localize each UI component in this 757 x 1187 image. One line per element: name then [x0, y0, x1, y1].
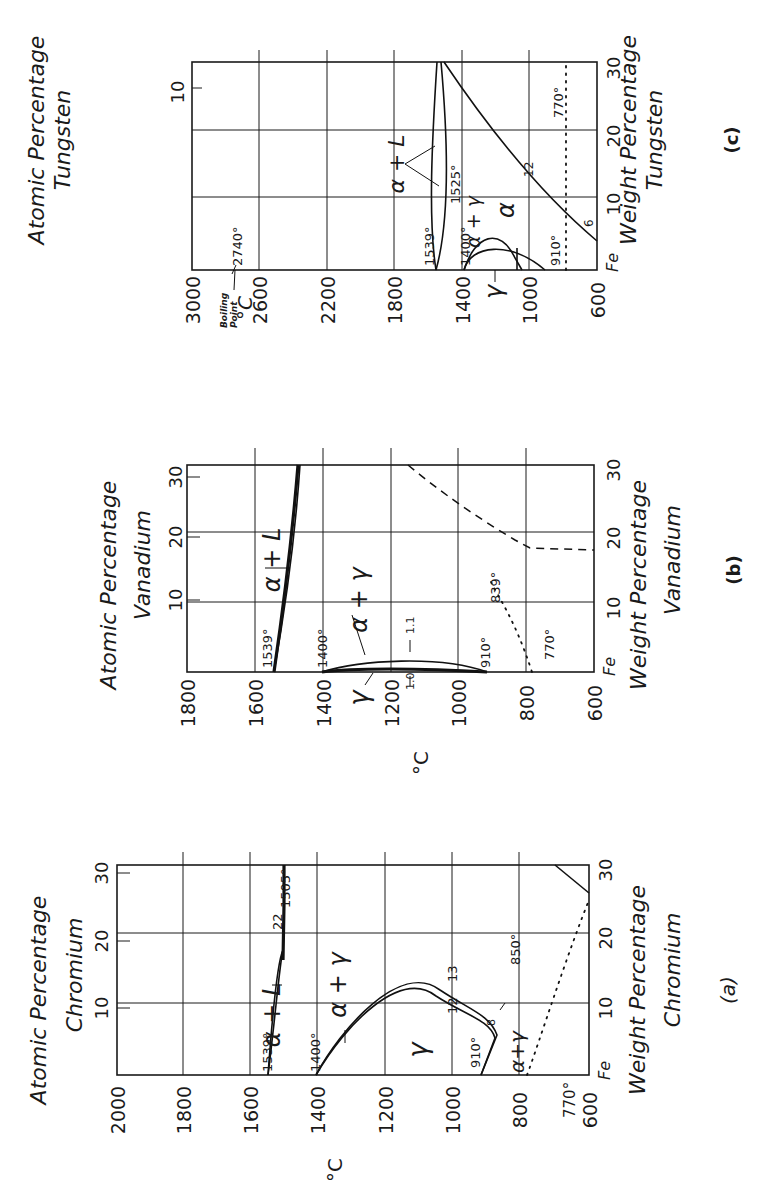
chart-a-unit: °C	[323, 1158, 347, 1182]
chart-a-weight-title: Weight Percentage	[625, 885, 650, 1095]
svg-text:1505°: 1505°	[278, 868, 293, 908]
svg-text:600: 600	[579, 1092, 601, 1128]
chart-a-y-ticks: 2000 1800 1600 1400 1200 1000 800 600	[107, 1086, 601, 1134]
chart-b-region-aL: α + L	[258, 528, 286, 593]
svg-text:20: 20	[595, 927, 616, 950]
chart-a-chromium: Atomic Percentage Chromium Weight Percen…	[26, 852, 740, 1182]
chart-b-atomic-element: Vanadium	[130, 510, 155, 620]
chart-b-atomic-title: Atomic Percentage	[96, 481, 121, 692]
svg-text:30: 30	[91, 862, 112, 885]
chart-a-atomic-title: Atomic Percentage	[26, 896, 51, 1107]
chart-b-y-ticks: 1800 1600 1400 1200 1000 800 600	[177, 679, 606, 727]
chart-b-vanadium: Atomic Percentage Vanadium Weight Percen…	[96, 448, 744, 775]
chart-b-weight-element: Vanadium	[660, 505, 685, 615]
svg-text:1539°: 1539°	[422, 226, 437, 266]
chart-c-region-g: γ	[480, 283, 508, 299]
chart-c-atomic-element: Tungsten	[50, 90, 75, 191]
svg-text:20: 20	[603, 125, 624, 148]
chart-c-tungsten: Atomic Percentage Tungsten Weight Percen…	[24, 35, 742, 328]
svg-text:1525°: 1525°	[448, 164, 463, 204]
svg-text:12: 12	[522, 162, 536, 177]
svg-text:839°: 839°	[488, 572, 503, 603]
svg-text:10: 10	[91, 997, 112, 1020]
svg-text:2200: 2200	[317, 276, 339, 324]
svg-text:850°: 850°	[508, 934, 523, 965]
svg-text:20: 20	[91, 930, 112, 953]
chart-c-region-a: α	[492, 202, 520, 218]
chart-c-unit: °C	[233, 296, 257, 320]
chart-a-fe-label: Fe	[595, 1061, 614, 1080]
chart-c-caption: (c)	[721, 126, 742, 153]
chart-b-region-g: γ	[344, 689, 374, 706]
chart-a-caption: (a)	[716, 976, 740, 1004]
svg-text:910°: 910°	[478, 637, 493, 668]
svg-text:1000: 1000	[442, 1086, 464, 1134]
chart-a-weight-element: Chromium	[660, 913, 685, 1028]
chart-a-region-ag2: α+γ	[505, 1030, 529, 1073]
svg-text:20: 20	[603, 527, 624, 550]
svg-text:910°: 910°	[548, 235, 563, 266]
svg-text:10: 10	[603, 193, 624, 216]
chart-c-atomic-title: Atomic Percentage	[24, 36, 49, 247]
svg-text:20: 20	[165, 526, 186, 549]
svg-text:1200: 1200	[381, 679, 403, 727]
chart-c-region-aL: α + L	[384, 134, 409, 193]
svg-text:1400: 1400	[307, 1086, 329, 1134]
svg-text:30: 30	[603, 459, 624, 482]
svg-text:10: 10	[603, 597, 624, 620]
svg-text:10: 10	[167, 81, 188, 104]
svg-text:6: 6	[582, 219, 596, 227]
chart-a-region-ag: α + γ	[324, 951, 352, 1018]
svg-text:1400°: 1400°	[458, 226, 473, 266]
svg-text:600: 600	[587, 282, 609, 318]
svg-text:10: 10	[595, 997, 616, 1020]
svg-text:8: 8	[485, 1019, 498, 1026]
svg-text:1800: 1800	[384, 276, 406, 324]
svg-text:1400: 1400	[452, 276, 474, 324]
svg-text:2740°: 2740°	[230, 226, 245, 266]
svg-text:30: 30	[603, 57, 624, 80]
svg-text:2000: 2000	[107, 1086, 129, 1134]
svg-text:1539°: 1539°	[260, 628, 275, 668]
chart-a-atomic-element: Chromium	[62, 918, 87, 1033]
chart-b-unit: °C	[409, 751, 433, 775]
svg-text:1800: 1800	[173, 1086, 195, 1134]
svg-text:30: 30	[595, 859, 616, 882]
svg-text:13: 13	[445, 965, 460, 982]
svg-text:1400: 1400	[313, 679, 335, 727]
svg-text:770°: 770°	[561, 1082, 579, 1118]
svg-text:1.1: 1.1	[404, 617, 417, 635]
svg-text:1200: 1200	[375, 1086, 397, 1134]
svg-text:1400°: 1400°	[315, 628, 330, 668]
svg-text:800: 800	[509, 1092, 531, 1128]
svg-text:800: 800	[516, 685, 538, 721]
svg-text:1600: 1600	[245, 679, 267, 727]
chart-b-fe-label: Fe	[600, 657, 619, 676]
svg-text:12: 12	[445, 997, 460, 1014]
chart-b-region-ag: α + γ	[345, 566, 373, 633]
svg-text:910°: 910°	[468, 1037, 483, 1068]
svg-text:22: 22	[270, 913, 285, 930]
svg-text:1000: 1000	[448, 679, 470, 727]
chart-c-weight-element: Tungsten	[642, 90, 667, 191]
chart-c-boiling-label: Boiling	[219, 292, 229, 328]
svg-text:1539°: 1539°	[260, 1032, 275, 1072]
svg-text:770°: 770°	[551, 87, 566, 118]
svg-text:770°: 770°	[542, 629, 557, 660]
chart-c-fe-label: Fe	[603, 253, 622, 272]
svg-text:1800: 1800	[177, 679, 199, 727]
phase-diagrams-figure: Atomic Percentage Tungsten Weight Percen…	[0, 0, 757, 1187]
chart-b-caption: (b)	[723, 555, 744, 584]
svg-text:1400°: 1400°	[308, 1032, 323, 1072]
svg-text:10: 10	[165, 589, 186, 612]
svg-text:1600: 1600	[240, 1086, 262, 1134]
figure-page: Atomic Percentage Tungsten Weight Percen…	[0, 0, 757, 1187]
chart-a-region-g: γ	[403, 1041, 433, 1058]
svg-text:600: 600	[584, 685, 606, 721]
chart-b-weight-title: Weight Percentage	[626, 480, 651, 690]
svg-text:30: 30	[165, 466, 186, 489]
svg-text:3000: 3000	[182, 276, 204, 324]
svg-text:1000: 1000	[519, 276, 541, 324]
